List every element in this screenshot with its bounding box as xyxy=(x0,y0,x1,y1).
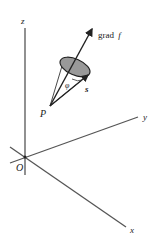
origin-label: O xyxy=(16,162,23,173)
x-axis-label: x xyxy=(129,225,134,235)
direction-vector-label: s xyxy=(84,84,89,94)
y-axis xyxy=(10,117,138,163)
angle-arc xyxy=(72,79,82,81)
x-axis xyxy=(10,147,126,227)
point-p-label: P xyxy=(39,108,46,119)
origin-point xyxy=(24,156,27,159)
direction-vector-s xyxy=(50,75,88,106)
grad-label: grad f xyxy=(98,30,122,40)
angle-label: φ xyxy=(65,81,70,90)
y-axis-label: y xyxy=(142,112,147,122)
gradient-diagram: z y x O grad f s φ P xyxy=(0,0,156,245)
cone-disk xyxy=(57,53,93,81)
z-axis-label: z xyxy=(20,16,25,26)
